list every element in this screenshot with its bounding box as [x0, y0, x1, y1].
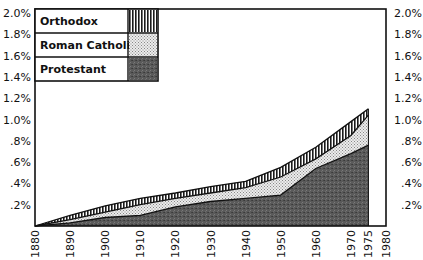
x-tick: 1950 [275, 230, 288, 258]
y-tick-left: 1.2% [3, 92, 31, 105]
y-tick-right: 1.8% [394, 28, 422, 41]
y-tick-left: .6% [10, 156, 31, 169]
y-tick-right: .4% [401, 177, 422, 190]
x-tick: 1970 [345, 230, 358, 258]
x-tick: 1960 [310, 230, 323, 258]
x-tick: 1930 [205, 230, 218, 258]
x-tick: 1980 [380, 230, 393, 258]
legend-swatch-roman-catholic [129, 34, 157, 56]
y-axis-left: 2.0%1.8%1.6%1.4%1.2%1.0%.8%.6%.4%.2% [3, 7, 31, 212]
x-tick: 1880 [29, 230, 42, 258]
y-tick-right: 1.2% [394, 92, 422, 105]
y-axis-right: 2.0%1.8%1.6%1.4%1.2%1.0%.8%.6%.4%.2% [394, 7, 422, 212]
y-tick-left: 1.4% [3, 71, 31, 84]
x-tick: 1890 [64, 230, 77, 258]
y-tick-left: 1.6% [3, 50, 31, 63]
y-tick-left: .2% [10, 199, 31, 212]
y-tick-right: .6% [401, 156, 422, 169]
x-tick: 1920 [169, 230, 182, 258]
x-axis: 1880189019001910192019301940195019601970… [29, 230, 393, 258]
y-tick-right: .8% [401, 135, 422, 148]
legend-swatch-orthodox [129, 10, 157, 32]
y-tick-left: 2.0% [3, 7, 31, 20]
legend-label-roman-catholic: Roman Catholic [40, 39, 137, 52]
y-tick-left: 1.0% [3, 114, 31, 127]
y-tick-right: .2% [401, 199, 422, 212]
y-tick-right: 1.0% [394, 114, 422, 127]
legend-swatch-protestant [129, 58, 157, 80]
y-tick-right: 2.0% [394, 7, 422, 20]
y-tick-left: 1.8% [3, 28, 31, 41]
x-tick: 1975 [362, 230, 375, 258]
y-tick-left: .8% [10, 135, 31, 148]
x-tick: 1910 [134, 230, 147, 258]
legend-label-protestant: Protestant [40, 63, 106, 76]
x-tick: 1940 [240, 230, 253, 258]
y-tick-right: 1.4% [394, 71, 422, 84]
y-tick-left: .4% [10, 177, 31, 190]
legend-label-orthodox: Orthodox [40, 15, 98, 28]
x-tick: 1900 [99, 230, 112, 258]
stacked-area-chart: 2.0%1.8%1.6%1.4%1.2%1.0%.8%.6%.4%.2% 2.0… [0, 0, 423, 260]
legend: Orthodox Roman Catholic Protestant [35, 9, 158, 81]
y-tick-right: 1.6% [394, 50, 422, 63]
